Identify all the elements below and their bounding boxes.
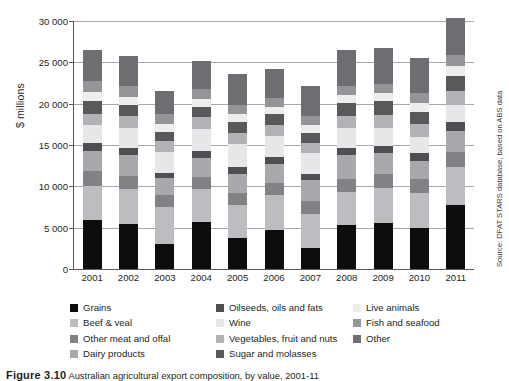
y-axis-tick [69, 21, 74, 22]
stacked-bar[interactable] [374, 48, 393, 269]
bar-segment [446, 18, 465, 55]
bar-segment [337, 148, 356, 155]
x-axis-tick-label: 2007 [300, 272, 321, 283]
bar-segment [228, 167, 247, 174]
bar-segment [265, 183, 284, 195]
y-axis-tick [69, 145, 74, 146]
stacked-bar[interactable] [155, 91, 174, 269]
bar-segment [446, 91, 465, 105]
legend-item[interactable]: Oilseeds, oils and fats [216, 300, 337, 316]
bar-segment [228, 238, 247, 269]
legend-item[interactable]: Other meat and offal [70, 331, 170, 347]
bar-segment [410, 161, 429, 179]
y-axis-tick [69, 186, 74, 187]
legend-item[interactable]: Grains [70, 300, 170, 316]
bar-segment [337, 116, 356, 128]
bar-segment [83, 143, 102, 150]
legend-item[interactable]: Sugar and molasses [216, 347, 337, 363]
x-axis-tick-label: 2005 [227, 272, 248, 283]
bar-segment [410, 58, 429, 93]
y-axis-tick-label: 30 000 [39, 16, 68, 27]
bar-segment [265, 164, 284, 183]
bar-segment [301, 125, 320, 132]
bar-segment [374, 223, 393, 269]
legend-item[interactable]: Live animals [353, 300, 440, 316]
bar-segment [410, 193, 429, 228]
bar-segment [119, 176, 138, 188]
bar-segment [228, 144, 247, 167]
bar-segment [374, 146, 393, 153]
bar-segment [301, 153, 320, 174]
bar-segment [192, 61, 211, 89]
bar-segment [410, 137, 429, 154]
x-axis-line [73, 269, 474, 270]
legend-swatch-live-animals [353, 304, 361, 312]
x-axis-tick-label: 2003 [154, 272, 175, 283]
legend-column: GrainsBeef & vealOther meat and offalDai… [70, 300, 170, 362]
bar-segment [83, 101, 102, 113]
bar-segment [119, 56, 138, 87]
bar-segment [446, 167, 465, 204]
bar-segment [337, 86, 356, 95]
legend-item-label: Dairy products [83, 349, 145, 359]
x-axis-tick-label: 2011 [445, 272, 466, 283]
stacked-bar[interactable] [446, 18, 465, 269]
bar-segment [265, 98, 284, 107]
bar-segment [374, 188, 393, 223]
bar-segment [374, 115, 393, 127]
x-axis-tick-label: 2010 [409, 272, 430, 283]
legend-item[interactable]: Other [353, 331, 440, 347]
bar-segment [337, 179, 356, 192]
x-axis-tick-label: 2009 [372, 272, 393, 283]
bar-segment [192, 158, 211, 177]
legend-swatch-other [353, 335, 361, 343]
y-axis-tick-label: 5 000 [44, 222, 68, 233]
stacked-bar[interactable] [301, 86, 320, 269]
legend-item[interactable]: Fish and seafood [353, 316, 440, 332]
bar-segment [192, 222, 211, 269]
bar-segment [410, 93, 429, 103]
bar-segment [337, 128, 356, 148]
bar-segment [265, 136, 284, 157]
y-axis-tick-label: 20 000 [39, 98, 68, 109]
legend-item[interactable]: Vegetables, fruit and nuts [216, 331, 337, 347]
stacked-bar[interactable] [228, 74, 247, 269]
y-axis-tick-labels: 05 00010 00015 00020 00025 00030 000 [16, 21, 68, 269]
bar-segment [374, 128, 393, 146]
bar-segment [228, 205, 247, 238]
stacked-bar[interactable] [119, 56, 138, 269]
legend-item-label: Vegetables, fruit and nuts [229, 334, 337, 344]
legend-item-label: Live animals [366, 303, 419, 313]
stacked-bar[interactable] [337, 50, 356, 269]
stacked-bar[interactable] [83, 50, 102, 269]
stacked-bar[interactable] [410, 58, 429, 269]
bar-segment [192, 107, 211, 117]
legend-column: Oilseeds, oils and fatsWineVegetables, f… [216, 300, 337, 362]
y-axis-tick-label: 0 [63, 264, 68, 275]
bar-segment [119, 97, 138, 105]
bar-segment [155, 124, 174, 132]
legend-item[interactable]: Wine [216, 316, 337, 332]
bar-segment [119, 86, 138, 97]
bar-segment [83, 125, 102, 143]
bar-segment [265, 125, 284, 136]
bar-segment [119, 224, 138, 269]
legend-item[interactable]: Dairy products [70, 347, 170, 363]
bar-segment [446, 76, 465, 92]
legend-swatch-dairy-products [70, 350, 78, 358]
stacked-bar[interactable] [192, 61, 211, 269]
bar-segment [192, 129, 211, 151]
x-axis-tick-label: 2001 [82, 272, 103, 283]
plot-canvas [74, 21, 474, 269]
bar-segment [301, 180, 320, 201]
legend-item[interactable]: Beef & veal [70, 316, 170, 332]
bar-segment [228, 174, 247, 193]
bar-segment [301, 133, 320, 143]
bar-segment [192, 151, 211, 158]
bar-segment [83, 220, 102, 269]
bar-segment [337, 95, 356, 103]
bar-segment [410, 179, 429, 193]
stacked-bar[interactable] [265, 69, 284, 269]
legend-item-label: Fish and seafood [366, 318, 440, 328]
